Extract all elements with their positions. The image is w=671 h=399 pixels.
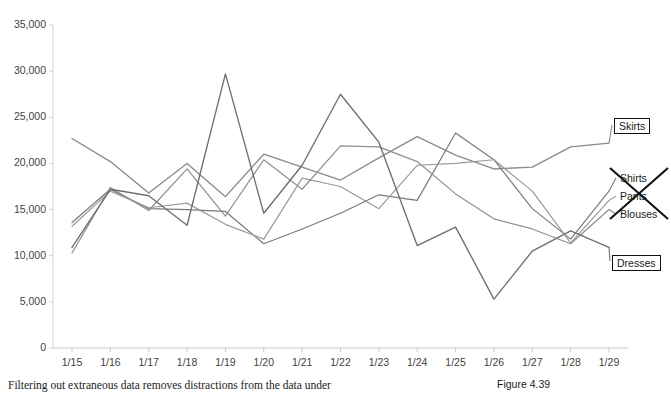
y-axis-tick-label: 35,000 [0, 19, 46, 30]
chart-plot-area [0, 0, 671, 372]
y-axis-tick-label: 25,000 [0, 111, 46, 122]
figure-caption-text: Filtering out extraneous data removes di… [8, 379, 331, 391]
leader-line-blouses [609, 210, 616, 214]
leader-line-skirts [609, 125, 612, 143]
series-label-shirts[interactable]: Shirts [618, 172, 649, 184]
x-axis-tick-label: 1/21 [282, 357, 322, 368]
x-axis-tick-label: 1/15 [52, 357, 92, 368]
x-axis-tick-label: 1/24 [397, 357, 437, 368]
leader-line-dresses [609, 247, 610, 261]
series-label-pants[interactable]: Pants [618, 190, 649, 202]
x-axis-tick-label: 1/28 [551, 357, 591, 368]
x-axis-tick-label: 1/16 [90, 357, 130, 368]
x-axis-tick-label: 1/22 [321, 357, 361, 368]
line-chart: 05,00010,00015,00020,00025,00030,00035,0… [0, 0, 671, 372]
x-axis-tick-label: 1/27 [512, 357, 552, 368]
x-axis-tick-label: 1/20 [244, 357, 284, 368]
x-axis-tick-label: 1/17 [129, 357, 169, 368]
x-axis-tick-label: 1/29 [589, 357, 629, 368]
x-axis-tick-label: 1/25 [436, 357, 476, 368]
y-axis-tick-label: 15,000 [0, 204, 46, 215]
y-axis-tick-label: 5,000 [0, 296, 46, 307]
y-axis-tick-label: 10,000 [0, 250, 46, 261]
series-label-dresses[interactable]: Dresses [612, 255, 661, 271]
series-line-pants[interactable] [72, 160, 609, 243]
x-axis-tick-label: 1/23 [359, 357, 399, 368]
x-axis-tick-label: 1/19 [205, 357, 245, 368]
series-label-blouses[interactable]: Blouses [618, 208, 659, 220]
leader-line-shirts [609, 178, 616, 191]
figure-number: Figure 4.39 [497, 378, 550, 390]
y-axis-tick-label: 20,000 [0, 157, 46, 168]
x-axis-tick-label: 1/26 [474, 357, 514, 368]
x-axis-tick-label: 1/18 [167, 357, 207, 368]
series-label-skirts[interactable]: Skirts [614, 118, 650, 134]
y-axis-tick-label: 0 [0, 342, 46, 353]
figure-root: 05,00010,00015,00020,00025,00030,00035,0… [0, 0, 671, 399]
leader-line-pants [609, 196, 616, 200]
y-axis-tick-label: 30,000 [0, 65, 46, 76]
